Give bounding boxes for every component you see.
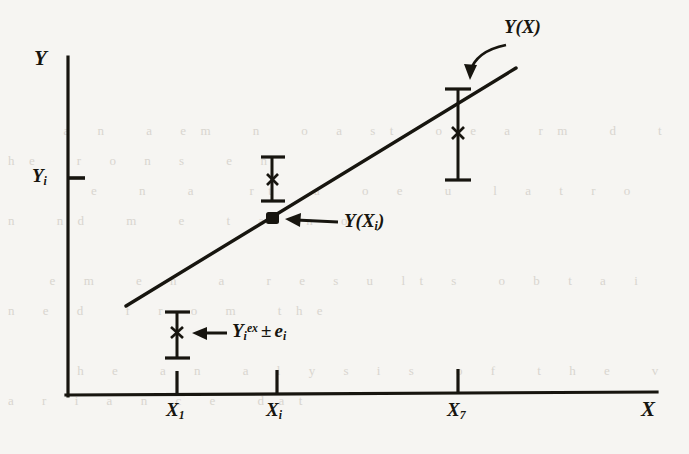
x-axis-label: X: [641, 397, 655, 422]
x-tick-label-Xi-base: X: [266, 399, 279, 420]
arrow-to-line-head: [464, 64, 477, 80]
arrow-to-point: [296, 220, 338, 222]
axis-ticks: [68, 178, 458, 395]
line-annotation-label: Y(X): [504, 16, 541, 38]
x-axis-line: [66, 392, 657, 395]
y-axis-label: Y: [34, 46, 47, 71]
figure-container: a n a e m n o a s t o e a r m d t h e r …: [0, 0, 689, 454]
y-tick-label-Yi: Yi: [32, 165, 47, 189]
arrow-to-point-head: [285, 213, 301, 227]
x-tick-label-X1-sub: 1: [179, 409, 185, 422]
y-tick-label-Yi-sub: i: [44, 175, 47, 188]
x-tick-label-X7: X7: [447, 399, 466, 423]
error-annotation-err-sub: i: [283, 330, 286, 343]
error-bar-x1: [165, 312, 190, 358]
x-tick-label-X1-base: X: [166, 399, 179, 420]
x-tick-label-X7-sub: 7: [460, 409, 466, 422]
error-annotation-err-base: e: [274, 320, 282, 341]
error-annotation-label: Yiex±ei: [232, 320, 286, 344]
x-tick-label-X1: X1: [166, 399, 185, 423]
point-annotation-label: Y(Xi): [344, 210, 384, 234]
error-annotation-base: Y: [232, 320, 244, 341]
error-bar-xi: [261, 157, 285, 201]
error-annotation-plusminus: ±: [258, 320, 274, 341]
error-bar-x7: [445, 89, 471, 180]
arrow-to-error-bar-head: [192, 327, 207, 340]
point-annotation-prefix: Y(X: [344, 210, 375, 231]
x-tick-label-X7-base: X: [447, 399, 460, 420]
error-annotation-sup: ex: [247, 322, 258, 335]
x-tick-label-Xi: Xi: [266, 399, 282, 423]
y-tick-label-Yi-base: Y: [32, 165, 44, 186]
x-tick-label-Xi-sub: i: [279, 409, 282, 422]
point-annotation-suffix: ): [378, 210, 384, 231]
fitted-point-marker: [266, 212, 279, 224]
